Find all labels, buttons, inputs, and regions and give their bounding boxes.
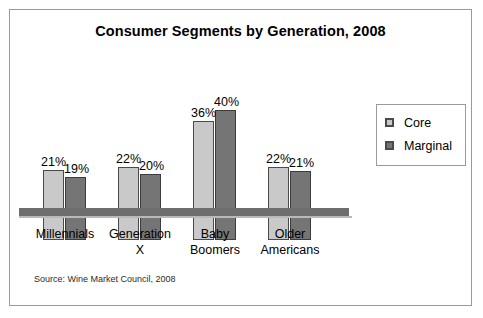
bar-baby-boomers-core[interactable]: [193, 121, 214, 240]
page-title: Consumer Segments by Generation, 2008: [10, 23, 471, 39]
source-note: Source: Wine Market Council, 2008: [34, 274, 176, 284]
bar-value-generation-x-marginal: 20%: [139, 160, 164, 173]
x-axis-label-millennials: Millennials: [26, 226, 104, 242]
x-axis-category-labels: Millennials Generation X Baby Boomers Ol…: [18, 226, 358, 266]
x-axis-label-generation-x: Generation X: [101, 226, 179, 258]
x-axis-label-baby-boomers-line1: Baby: [176, 226, 254, 242]
bar-baby-boomers-marginal[interactable]: [215, 110, 236, 240]
legend-swatch-marginal-icon: [385, 141, 394, 150]
bar-value-millennials-core: 21%: [41, 156, 66, 169]
bar-value-generation-x-core: 22%: [116, 153, 141, 166]
x-axis-label-baby-boomers: Baby Boomers: [176, 226, 254, 258]
legend-swatch-core-icon: [385, 118, 394, 127]
bar-value-older-americans-marginal: 21%: [289, 157, 314, 170]
x-axis-label-older-americans-line2: Americans: [251, 242, 329, 258]
legend-label-marginal: Marginal: [404, 138, 452, 154]
x-axis-label-older-americans-line1: Older: [251, 226, 329, 242]
bar-value-baby-boomers-core: 36%: [191, 107, 216, 120]
x-axis-label-generation-x-line2: X: [101, 242, 179, 258]
legend-label-core: Core: [404, 115, 431, 131]
x-axis-baseline-shadow: [19, 216, 352, 218]
chart-figure: Consumer Segments by Generation, 2008 21…: [9, 9, 472, 306]
bar-value-older-americans-core: 22%: [266, 153, 291, 166]
x-axis-label-older-americans: Older Americans: [251, 226, 329, 258]
x-axis-label-generation-x-line1: Generation: [101, 226, 179, 242]
chart-legend: Core Marginal: [376, 104, 466, 166]
bar-value-millennials-marginal: 19%: [64, 163, 89, 176]
x-axis-baseline: [19, 208, 349, 216]
x-axis-label-millennials-line1: Millennials: [26, 226, 104, 242]
bar-value-baby-boomers-marginal: 40%: [214, 96, 239, 109]
x-axis-label-baby-boomers-line2: Boomers: [176, 242, 254, 258]
